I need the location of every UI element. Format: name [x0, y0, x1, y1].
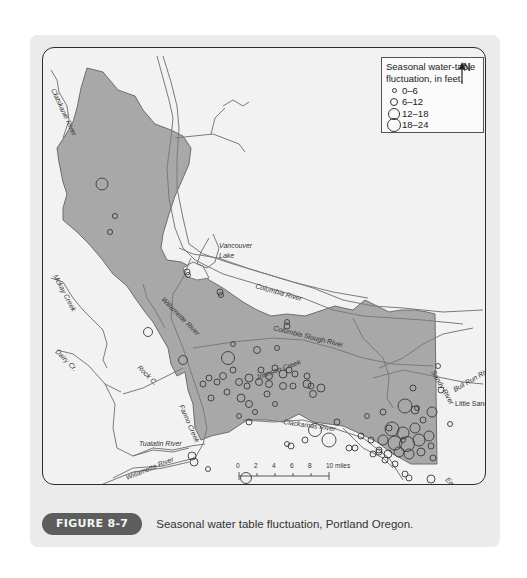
label-bullrun: Bull Run River: [452, 364, 485, 393]
label-vancouver: Vancouver: [219, 242, 253, 249]
caption-text: Seasonal water table fluctuation, Portla…: [156, 518, 413, 530]
svg-text:0: 0: [236, 462, 240, 469]
north-arrow: N: [457, 62, 477, 73]
label-tualatin: Tualatin River: [139, 440, 182, 447]
legend-row: 0–6: [386, 85, 479, 97]
scale-bar: 0 2 4 6 8 10 miles: [236, 462, 351, 480]
north-arrow-icon: [457, 62, 467, 84]
label-columbia: Columbia River: [255, 282, 304, 302]
figure-badge: FIGURE 8-7: [42, 513, 142, 535]
figure-panel: Clatskanie River Mckay Creek Dairy Cr. R…: [30, 35, 500, 547]
figure-caption: FIGURE 8-7 Seasonal water table fluctuat…: [42, 513, 413, 535]
circle-icon: [387, 118, 401, 132]
svg-text:2: 2: [254, 462, 258, 469]
legend-row: 6–12: [386, 97, 479, 109]
legend-row: 18–24: [386, 120, 479, 132]
label-mckay: Mckay Creek: [51, 273, 77, 313]
label-eagle: Eagle Creek: [444, 476, 477, 484]
label-dairy: Dairy Cr.: [54, 348, 79, 373]
label-vancouver-lake: Lake: [219, 252, 234, 259]
circle-icon: [390, 98, 398, 106]
label-littlesandy: Little Sandy River: [455, 400, 485, 408]
circle-icon: [392, 88, 397, 93]
map-frame: Clatskanie River Mckay Creek Dairy Cr. R…: [42, 47, 486, 485]
svg-text:6: 6: [290, 462, 294, 469]
svg-text:4: 4: [272, 462, 276, 469]
svg-text:10 miles: 10 miles: [326, 462, 351, 469]
study-area: [57, 68, 437, 464]
svg-text:8: 8: [308, 462, 312, 469]
label-clatskanie: Clatskanie River: [50, 87, 78, 137]
label-rock: Rock C.: [136, 364, 159, 387]
